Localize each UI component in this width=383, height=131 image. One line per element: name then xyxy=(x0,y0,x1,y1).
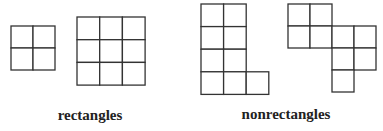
grid-cell xyxy=(122,17,145,40)
grid-cell xyxy=(332,48,354,70)
grid-cell xyxy=(77,40,100,63)
grid-cell xyxy=(122,62,145,85)
grid-cell xyxy=(310,26,332,48)
nonrectangle-stair-shape xyxy=(288,4,376,92)
grid-cell xyxy=(201,49,224,72)
grid-cell xyxy=(100,17,123,40)
grid-cell xyxy=(224,27,247,50)
grid-cell xyxy=(11,26,33,48)
grid-cell xyxy=(332,26,354,48)
nonrectangle-l-shape xyxy=(201,4,269,94)
grid-cell xyxy=(100,40,123,63)
grid-cell xyxy=(310,4,332,26)
grid-cell xyxy=(224,49,247,72)
grid-cell xyxy=(246,72,269,95)
grid-cell xyxy=(33,26,55,48)
grid-cell xyxy=(77,17,100,40)
rectangle-2x2-shape xyxy=(11,26,55,70)
grid-cell xyxy=(100,62,123,85)
rectangles-label: rectangles xyxy=(58,107,123,124)
grid-cell xyxy=(224,72,247,95)
rectangle-3x3-shape xyxy=(77,17,145,85)
grid-cell xyxy=(224,4,247,27)
grid-cell xyxy=(354,48,376,70)
grid-cell xyxy=(122,40,145,63)
grid-cell xyxy=(11,48,33,70)
grid-cell xyxy=(201,27,224,50)
grid-cell xyxy=(77,62,100,85)
grid-cell xyxy=(354,26,376,48)
grid-cell xyxy=(201,4,224,27)
grid-cell xyxy=(33,48,55,70)
grid-cell xyxy=(288,4,310,26)
grid-cell xyxy=(332,70,354,92)
grid-cell xyxy=(201,72,224,95)
nonrectangles-label: nonrectangles xyxy=(242,106,331,123)
grid-cell xyxy=(288,26,310,48)
